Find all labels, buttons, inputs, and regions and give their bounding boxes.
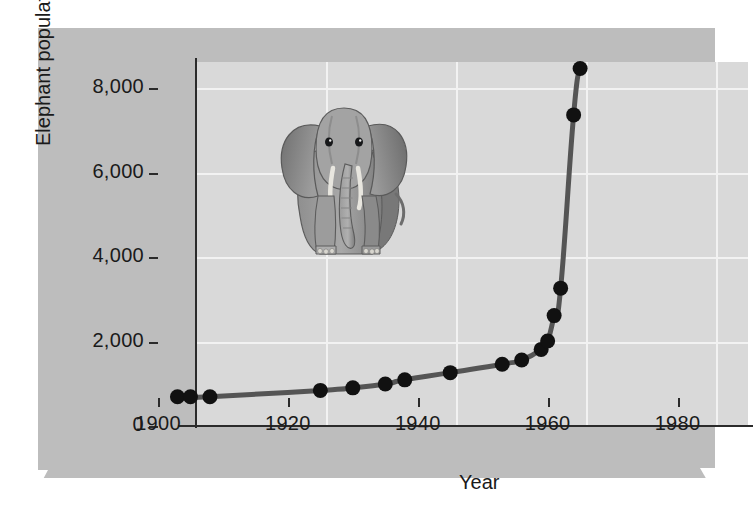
- y-tick-label: 0: [38, 413, 144, 436]
- x-tick-label: 1980: [655, 412, 701, 435]
- gridline-horizontal: [196, 342, 748, 344]
- gridline-vertical: [586, 62, 588, 426]
- x-tick-label: 1900: [135, 412, 181, 435]
- x-axis-title: Year: [459, 471, 499, 494]
- x-tick-label: 1920: [265, 412, 311, 435]
- x-tick-mark: [288, 398, 290, 407]
- x-tick-mark: [158, 398, 160, 407]
- gridline-vertical: [456, 62, 458, 426]
- y-tick-label: 2,000: [38, 329, 144, 352]
- figure-panel: 02,0004,0006,0008,000 190019201940196019…: [38, 28, 715, 478]
- y-axis-line: [195, 58, 197, 428]
- x-tick-label: 1940: [395, 412, 441, 435]
- y-tick-mark: [149, 257, 158, 259]
- x-tick-mark: [548, 398, 550, 407]
- y-tick-label: 4,000: [38, 244, 144, 267]
- x-tick-mark: [418, 398, 420, 407]
- y-tick-mark: [149, 88, 158, 90]
- y-axis-title: Elephant population: [32, 0, 55, 146]
- y-tick-mark: [149, 342, 158, 344]
- panel-bevel-right: [700, 468, 724, 482]
- x-tick-mark: [678, 398, 680, 407]
- elephant-illustration: [276, 90, 412, 262]
- y-tick-mark: [149, 173, 158, 175]
- x-tick-label: 1960: [525, 412, 571, 435]
- gridline-vertical: [716, 62, 718, 426]
- y-tick-label: 6,000: [38, 160, 144, 183]
